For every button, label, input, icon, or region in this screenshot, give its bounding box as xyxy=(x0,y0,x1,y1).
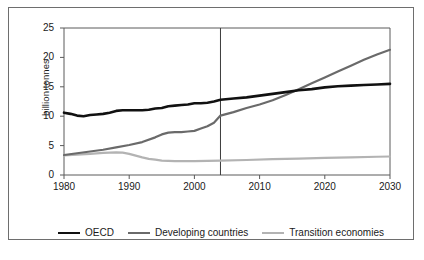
y-tick-label: 15 xyxy=(32,81,54,92)
legend-line-swatch xyxy=(128,232,150,234)
x-tick-label: 2000 xyxy=(174,181,214,192)
legend-item: Transition economies xyxy=(262,227,384,238)
figure: billion tonnes 0510152025198019902000201… xyxy=(0,0,424,260)
caption-strip xyxy=(10,246,414,258)
y-tick-label: 5 xyxy=(32,140,54,151)
y-tick-label: 25 xyxy=(32,22,54,33)
x-tick-label: 2020 xyxy=(305,181,345,192)
y-tick-label: 0 xyxy=(32,169,54,180)
legend-label: OECD xyxy=(85,227,114,238)
y-tick-label: 20 xyxy=(32,51,54,62)
legend-item: Developing countries xyxy=(128,227,248,238)
line-chart-plot xyxy=(9,8,415,241)
legend-label: Transition economies xyxy=(289,227,384,238)
figure-border: billion tonnes 0510152025198019902000201… xyxy=(8,7,414,240)
y-tick-label: 10 xyxy=(32,110,54,121)
x-tick-label: 1990 xyxy=(109,181,149,192)
x-tick-label: 2030 xyxy=(370,181,410,192)
x-tick-label: 1980 xyxy=(44,181,84,192)
x-tick-label: 2010 xyxy=(240,181,280,192)
legend-line-swatch xyxy=(58,232,80,234)
legend-label: Developing countries xyxy=(155,227,248,238)
legend-line-swatch xyxy=(262,232,284,234)
legend-item: OECD xyxy=(58,227,114,238)
chart-legend: OECDDeveloping countriesTransition econo… xyxy=(9,227,424,238)
